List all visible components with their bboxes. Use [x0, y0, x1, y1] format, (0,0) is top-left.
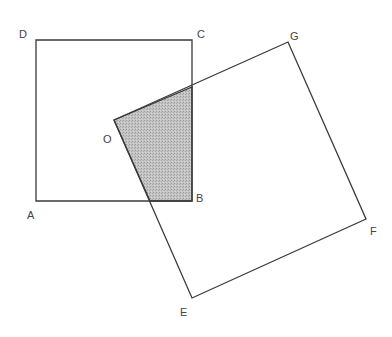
label-c: C: [197, 28, 205, 40]
shaded-overlap-region: [114, 87, 192, 201]
label-e: E: [180, 306, 187, 318]
label-f: F: [370, 225, 377, 237]
label-o: O: [103, 133, 112, 145]
label-g: G: [290, 30, 299, 42]
geometry-figure: D C G O B A F E: [0, 0, 392, 337]
label-a: A: [27, 209, 35, 221]
label-d: D: [19, 28, 27, 40]
label-b: B: [196, 192, 203, 204]
